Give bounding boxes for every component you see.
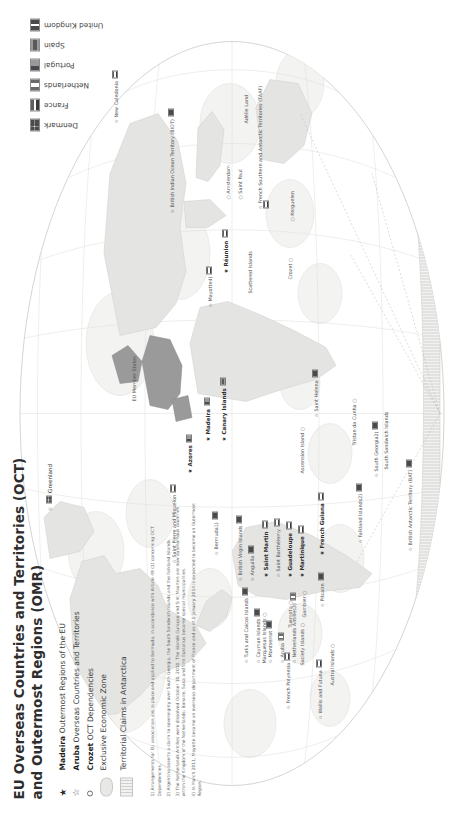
map-label-british-antarctic-territory: ☆ British Antarctic Territory (BAT) [406,458,413,551]
netherlands-flag-icon [30,78,40,91]
country-name: Netherlands [44,80,89,89]
open-star-icon: ☆ [113,119,119,123]
france-flag-icon [112,70,118,78]
small-circle-icon: ○ [351,398,357,402]
map-label-british-indian-ocean-territory: ☆ British Indian Ocean Territory (BIOT) [168,107,175,213]
legend-example-madeira: Madeira [58,735,67,770]
small-circle-icon: ○ [225,195,231,199]
map-label-pitcairn: ☆ Pitcairn [318,571,325,607]
map-label-french-guiana: ★ French Guiana [318,491,325,555]
footnote-2: 2) Argentina asserts a claim to sovereig… [166,496,173,796]
united-kingdom-flag-icon [372,421,378,429]
open-star-icon: ☆ [267,659,273,663]
open-star-icon: ☆ [373,473,379,477]
small-circle-icon: ○ [329,643,335,647]
footnote-4: 4) In March 2011, Mayotte became an over… [191,496,204,796]
open-star-icon: ☆ [249,577,255,581]
small-circle-icon: ○ [299,623,305,627]
united-kingdom-flag-icon [242,587,248,595]
open-star-icon: ☆ [243,659,249,663]
map-label-falkland-islands: ☆ Falkland Islands2) [356,482,363,543]
france-flag-icon [263,200,269,208]
portugal-flag-icon [204,397,210,405]
map-label-saint-helena: ☆ Saint Helena [312,368,319,417]
map-label-bermuda: ☆ Bermuda1) [212,510,219,555]
map-label-canary-islands: ★ Canary Islands [220,376,227,441]
map-label-society-islands: Society Islands ○ [300,623,305,665]
open-star-icon: ☆ [285,705,291,709]
france-flag-icon [262,520,268,528]
map-label-saint-barthelemy: ☆ Saint Barthélemy [274,517,281,577]
small-circle-icon: ○ [299,426,305,430]
legend-item-overseas-countries: ☆ Aruba Overseas Countries and Territori… [72,556,82,796]
map-label-south-georgia: ☆ South Georgia2) [372,420,379,477]
france-flag-icon [274,518,280,526]
map-label-new-caledonia: ☆ New Caledonia [112,69,119,123]
filled-star-icon: ★ [287,572,293,577]
map-label-gambier: Gambier ○ [302,590,307,617]
map-label-tristan-da-cunha: Tristan da Cunha ○ [352,398,357,445]
united-kingdom-flag-icon [312,369,318,377]
legend-example-aruba: Aruba [72,744,81,770]
map-legend: ★ Madeira Outermost Regions of the EU ☆ … [58,556,139,796]
map-label-scattered-islands: Scattered Islands [248,251,253,293]
netherlands-flag-icon [278,632,284,640]
filled-star-icon: ★ [221,436,227,441]
united-kingdom-flag-icon [356,483,362,491]
small-circle-icon: ○ [287,257,293,261]
footnote-1: 1) Arrangements for EU association are i… [150,496,163,796]
open-star-icon: ☆ [319,603,325,607]
legend-item-oct-dependencies: Crozet OCT Dependencies [86,556,96,796]
open-star-icon: ☆ [275,573,281,577]
map-label-greenland: ☆ Greenland [46,463,53,511]
map-label-ascension-island: Ascension Island ○ [300,426,305,473]
open-star-icon: ☆ [313,413,319,417]
france-flag-icon [170,484,176,492]
france-flag-icon [316,659,322,667]
legend-item-territorial-claims-antarctica: Territorial Claims in Antarctica [119,556,135,796]
map-label-anguilla: ☆ Anguilla [248,544,255,581]
filled-star-icon: ★ [263,572,269,577]
filled-star-icon: ★ [187,468,193,473]
small-circle-icon: ○ [301,590,307,594]
map-poster: ☆ Greenland EU Member States ★ Azores ★ … [0,0,464,813]
united-kingdom-flag-icon [248,545,254,553]
filled-star-icon: ★ [58,770,68,796]
map-label-azores: ★ Azores [186,433,193,473]
netherlands-flag-icon [290,592,296,600]
map-label-south-sandwich-islands: South Sandwich Islands [384,411,389,469]
legend-label: Exclusive Economic Zone [99,674,108,770]
legend-label: Territorial Claims in Antarctica [119,656,128,770]
country-legend-item-portugal: Portugal [30,58,75,71]
map-label-martinique: ★ Martinique [298,524,305,577]
page-title: EU Overseas Countries and Territories (O… [10,329,46,799]
open-star-icon: ☆ [255,659,261,663]
filled-star-icon: ★ [205,436,211,441]
map-label-eu-member-states: EU Member States [132,356,137,401]
open-star-icon: ☆ [72,770,82,796]
small-circle-icon [86,770,96,796]
map-label-cayman-islands: ☆ Cayman Islands [254,607,261,663]
open-star-icon: ☆ [407,547,413,551]
legend-label: Outermost Regions of the EU [58,623,67,733]
france-flag-icon [284,652,290,660]
map-label-saint-paul: ○ Saint Paul [238,169,243,199]
open-star-icon: ☆ [207,303,213,307]
footnotes: 1) Arrangements for EU association are i… [150,496,206,796]
map-label-kerguelen: ○ Kerguelen [290,191,295,221]
map-label-mayotte: ☆ Mayotte4) [206,265,213,307]
united-kingdom-flag-icon [318,572,324,580]
france-flag-icon [318,492,324,500]
spain-flag-icon [220,377,226,385]
united-kingdom-flag-icon [236,515,242,523]
small-circle-icon: ○ [287,600,293,604]
open-star-icon: ☆ [237,577,243,581]
map-label-british-virgin-islands: ☆ British Virgin Islands [236,514,243,581]
united-kingdom-flag-icon [254,608,260,616]
small-circle-icon: ○ [289,217,295,221]
united-kingdom-flag-icon [168,108,174,116]
open-star-icon: ☆ [357,539,363,543]
open-star-icon: ☆ [317,715,323,719]
map-label-adelie-land: Adélie Land [244,94,249,123]
map-label-crozet: Crozet ○ [288,257,293,279]
